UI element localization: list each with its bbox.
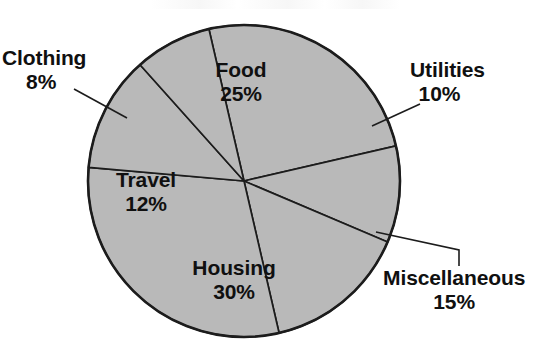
pie-label-utilities: Utilities 10% [410,58,485,107]
pie-label-miscellaneous-value: 15% [383,290,525,314]
pie-label-utilities-name: Utilities [410,58,485,82]
pie-label-housing-value: 30% [163,280,305,304]
pie-label-travel-value: 12% [98,192,194,216]
pie-label-housing: Housing 30% [163,256,305,305]
pie-label-food-value: 25% [185,82,297,106]
pie-label-miscellaneous: Miscellaneous 15% [383,266,525,315]
pie-label-travel-name: Travel [98,168,194,192]
pie-label-food-name: Food [185,58,297,82]
pie-label-clothing-name: Clothing [2,46,86,70]
pie-label-housing-name: Housing [163,256,305,280]
pie-label-clothing-value: 8% [2,70,86,94]
pie-label-food: Food 25% [185,58,297,107]
pie-label-clothing: Clothing 8% [2,46,86,95]
pie-label-miscellaneous-name: Miscellaneous [383,266,525,290]
pie-chart: Clothing 8% Food 25% Utilities 10% Trave… [0,0,544,344]
pie-label-travel: Travel 12% [98,168,194,217]
pie-label-utilities-value: 10% [410,82,485,106]
